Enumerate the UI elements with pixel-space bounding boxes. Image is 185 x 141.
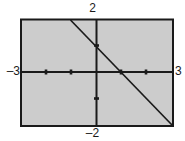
plot-area [0,0,185,141]
line-graph-figure: 2 –3 3 –2 [0,0,185,141]
